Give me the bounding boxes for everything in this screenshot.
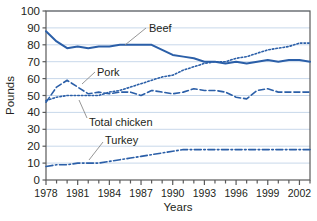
line-chart: 0102030405060708090100 19781981198419871… [0,0,317,221]
y-tick-label: 70 [27,56,40,68]
series-label-turkey: Turkey [105,134,139,146]
chart-container: 0102030405060708090100 19781981198419871… [0,0,317,221]
x-tick-label: 1987 [129,187,153,199]
y-tick-label: 50 [27,90,40,102]
y-tick-label: 20 [27,140,40,152]
x-tick-label: 1978 [34,187,58,199]
series-label-beef: Beef [149,22,173,34]
y-tick-label: 60 [27,73,40,85]
y-tick-label: 40 [27,106,40,118]
y-tick-label: 0 [34,174,40,186]
y-tick-label: 80 [27,39,40,51]
y-tick-label: 100 [21,5,40,17]
x-axis-label: Years [164,201,193,213]
y-tick-label: 90 [27,22,40,34]
x-tick-label: 1993 [193,187,217,199]
x-tick-label: 1984 [98,187,122,199]
x-tick-label: 1999 [256,187,280,199]
x-tick-label: 1996 [224,187,248,199]
y-tick-label: 10 [27,157,40,169]
x-tick-label: 2002 [288,187,312,199]
x-tick-label: 1990 [161,187,185,199]
series-label-total-chicken: Total chicken [89,116,153,128]
y-tick-label: 30 [27,123,40,135]
x-tick-label: 1981 [66,187,90,199]
series-label-pork: Pork [97,66,120,78]
y-axis-label: Pounds [4,76,16,115]
